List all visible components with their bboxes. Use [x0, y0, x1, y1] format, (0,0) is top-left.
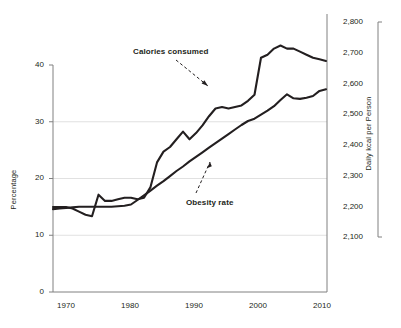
x-axis-tick-1970: 1970	[46, 301, 86, 310]
left-axis-tick-20: 20	[14, 173, 44, 182]
chart-figure: Percentage Daily kcal per Person 0 10 20…	[0, 0, 401, 328]
right-axis-spine	[378, 22, 382, 237]
annotation-label-obesity-rate: Obesity rate	[186, 198, 233, 207]
right-axis-title: Daily kcal per Person	[364, 84, 373, 184]
series-line-obesity-rate	[53, 89, 326, 209]
left-axis-tick-0: 0	[14, 287, 44, 296]
right-axis-tick-2600: 2,600	[343, 79, 377, 88]
x-axis-tick-2000: 2000	[238, 301, 278, 310]
left-axis-tick-10: 10	[14, 230, 44, 239]
annotation-arrow-calories	[176, 60, 208, 86]
right-axis-tick-2800: 2,800	[343, 17, 377, 26]
x-axis-tick-2010: 2010	[302, 301, 342, 310]
annotation-arrow-obesity	[196, 162, 212, 193]
right-axis-tick-2700: 2,700	[343, 48, 377, 57]
left-axis-tick-30: 30	[14, 117, 44, 126]
x-axis-tick-1990: 1990	[174, 301, 214, 310]
right-axis-tick-2200: 2,200	[343, 202, 377, 211]
left-axis-tick-40: 40	[14, 60, 44, 69]
left-axis-spine	[49, 65, 53, 292]
right-axis-tick-2100: 2,100	[343, 232, 377, 241]
right-axis-tick-2500: 2,500	[343, 109, 377, 118]
x-axis-tick-1980: 1980	[110, 301, 150, 310]
annotation-label-calories-consumed: Calories consumed	[133, 47, 209, 56]
right-axis-tick-2400: 2,400	[343, 140, 377, 149]
left-axis-title: Percentage	[9, 160, 18, 220]
right-axis-tick-2300: 2,300	[343, 171, 377, 180]
